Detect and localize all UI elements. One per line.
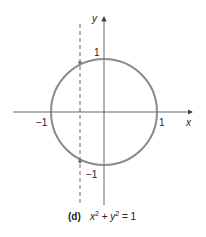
y-tick-pos-one: 1	[94, 47, 100, 58]
intersection-point-lower	[78, 160, 82, 164]
y-tick-neg-one: −1	[86, 169, 98, 180]
x-tick-neg-one: −1	[36, 117, 48, 128]
caption-equation: x2 + y2 = 1	[89, 210, 137, 222]
circle-graph: y x 1 −1 −1 1 (d) x2 + y2 = 1	[0, 0, 206, 237]
y-axis-label: y	[91, 13, 98, 24]
intersection-point-upper	[78, 61, 82, 65]
x-axis-label: x	[185, 117, 192, 128]
caption-label: (d)	[68, 211, 81, 222]
x-tick-pos-one: 1	[159, 117, 165, 128]
